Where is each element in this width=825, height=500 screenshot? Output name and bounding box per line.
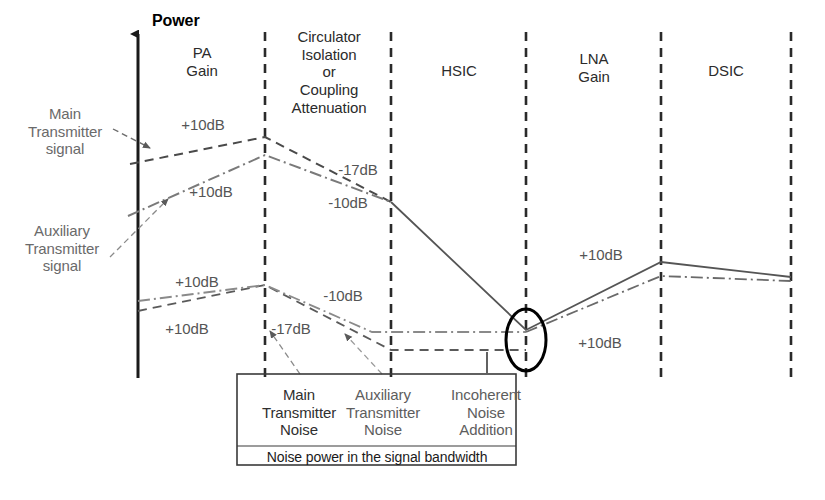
- trace-combined-signal-line: [391, 202, 791, 330]
- leader-aux-noise: [345, 334, 382, 374]
- stage-label-pa-gain: PA Gain: [186, 44, 217, 79]
- annotation-pa-gain-main-noise: +10dB: [175, 273, 218, 291]
- stage-label-circulator: Circulator Isolation or Coupling Attenua…: [292, 28, 367, 116]
- annotation-circulator-aux-noise: -10dB: [323, 287, 363, 305]
- trace-combined-signal: [391, 202, 791, 330]
- stage-label-dsic: DSIC: [708, 62, 743, 80]
- annotation-lna-gain-noise: +10dB: [578, 334, 621, 352]
- noise-column-incoherent-noise-addition: Incoherent Noise Addition: [451, 386, 521, 439]
- noise-column-auxiliary-transmitter-noise: Auxiliary Transmitter Noise: [346, 386, 420, 439]
- page-title: Power: [152, 12, 200, 31]
- annotation-pa-gain-aux-noise: +10dB: [165, 320, 208, 338]
- trace-combined-noise-line: [526, 276, 791, 332]
- annotation-pa-gain-aux: +10dB: [189, 183, 232, 201]
- annotation-circulator-main-noise: -17dB: [271, 320, 311, 338]
- annotation-pa-gain-main: +10dB: [181, 116, 224, 134]
- leader-main-signal: [113, 129, 150, 148]
- trace-combined-noise: [526, 276, 791, 332]
- annotation-lna-gain-signal: +10dB: [579, 246, 622, 264]
- noise-box-caption: Noise power in the signal bandwidth: [267, 449, 488, 466]
- legend-main-transmitter-signal: Main Transmitter signal: [28, 105, 102, 158]
- annotation-circulator-main: -17dB: [338, 161, 378, 179]
- annotation-circulator-aux: -10dB: [328, 194, 368, 212]
- noise-column-main-transmitter-noise: Main Transmitter Noise: [262, 386, 336, 439]
- stage-label-lna-gain: LNA Gain: [578, 50, 609, 85]
- stage-label-hsic: HSIC: [441, 62, 476, 80]
- legend-auxiliary-transmitter-signal: Auxiliary Transmitter signal: [25, 222, 99, 275]
- diagram-canvas: Power PA Gain Circulator Isolation or Co…: [0, 0, 825, 500]
